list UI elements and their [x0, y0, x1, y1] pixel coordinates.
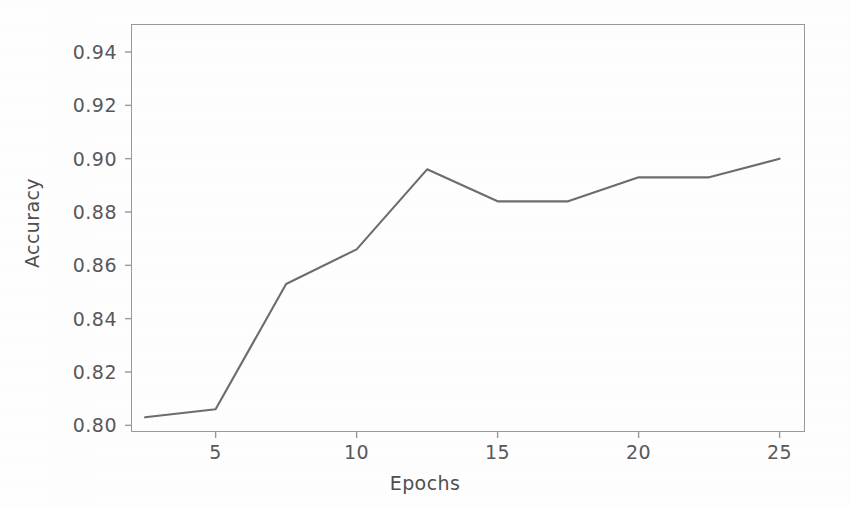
x-tick-label: 15: [485, 441, 510, 463]
y-tick-label: 0.80: [73, 414, 117, 436]
y-tick-label: 0.82: [73, 361, 117, 383]
y-tick-label: 0.92: [73, 94, 117, 116]
x-tick-label: 20: [626, 441, 651, 463]
x-tick-label: 10: [344, 441, 369, 463]
y-axis-tick-labels: 0.800.820.840.860.880.900.920.94: [0, 0, 117, 508]
y-axis-title: Accuracy: [21, 123, 43, 323]
y-tick-label: 0.84: [73, 308, 117, 330]
y-tick-label: 0.94: [73, 41, 117, 63]
plot-area-frame: [131, 24, 805, 432]
x-axis-title: Epochs: [0, 472, 850, 494]
x-tick-label: 25: [767, 441, 792, 463]
x-tick-label: 5: [209, 441, 222, 463]
y-tick-label: 0.90: [73, 148, 117, 170]
y-tick-label: 0.86: [73, 254, 117, 276]
y-tick-label: 0.88: [73, 201, 117, 223]
chart-figure: 0.800.820.840.860.880.900.920.94 5101520…: [0, 0, 850, 508]
x-axis-tick-marks: [216, 432, 780, 438]
